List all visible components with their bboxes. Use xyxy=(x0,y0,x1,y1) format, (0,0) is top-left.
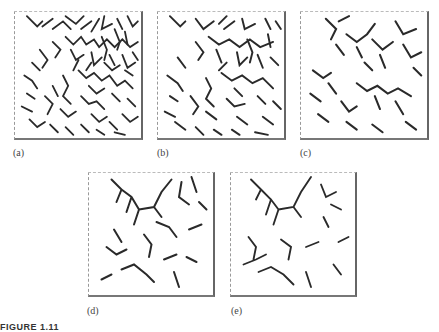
panel-b-border xyxy=(157,11,286,140)
panel-e-border xyxy=(230,172,357,297)
panel-a-border xyxy=(14,11,143,140)
panel-a-label: (a) xyxy=(13,147,24,158)
figure-caption: FIGURE 1.11 xyxy=(0,322,59,332)
panel-d-border xyxy=(88,172,215,297)
panel-b-label: (b) xyxy=(157,147,169,158)
panel-c-border xyxy=(300,11,429,140)
panel-b-image xyxy=(157,11,286,140)
panel-d-image xyxy=(88,172,215,297)
panel-a-image xyxy=(14,11,143,140)
panel-d-label: (d) xyxy=(87,305,99,316)
panel-c-image xyxy=(300,11,429,140)
panel-e-image xyxy=(230,172,357,297)
panel-e-label: (e) xyxy=(231,305,242,316)
panel-c-label: (c) xyxy=(300,147,311,158)
